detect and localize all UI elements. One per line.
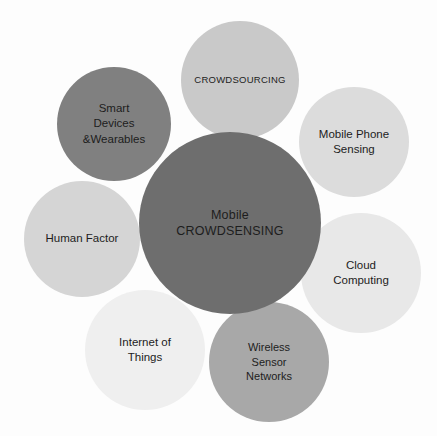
bubble-label-cloud-computing: Cloud Computing — [327, 258, 395, 288]
bubble-mobile-phone-sensing[interactable]: Mobile Phone Sensing — [299, 87, 409, 197]
bubble-label-wireless-sensor-networks: Wireless Sensor Networks — [240, 340, 298, 384]
bubble-diagram: CROWDSOURCING Mobile Phone Sensing Cloud… — [0, 0, 437, 436]
bubble-smart-devices-wearables[interactable]: Smart Devices &Wearables — [57, 67, 171, 181]
bubble-wireless-sensor-networks[interactable]: Wireless Sensor Networks — [209, 302, 329, 422]
bubble-label-mobile-phone-sensing: Mobile Phone Sensing — [313, 127, 395, 157]
bubble-crowdsourcing[interactable]: CROWDSOURCING — [181, 21, 299, 139]
bubble-internet-of-things[interactable]: Internet of Things — [85, 290, 205, 410]
bubble-label-crowdsourcing: CROWDSOURCING — [188, 74, 291, 87]
bubble-label-smart-devices-wearables: Smart Devices &Wearables — [77, 101, 151, 147]
bubble-label-internet-of-things: Internet of Things — [113, 335, 177, 365]
bubble-core-mobile-crowdsensing[interactable]: Mobile CROWDSENSING — [139, 132, 321, 314]
bubble-label-core: Mobile CROWDSENSING — [170, 207, 289, 240]
bubble-human-factor[interactable]: Human Factor — [24, 181, 140, 297]
bubble-label-human-factor: Human Factor — [40, 231, 125, 246]
